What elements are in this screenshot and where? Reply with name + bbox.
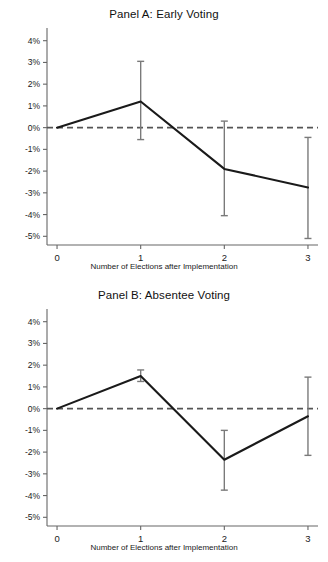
panel-b-x-axis-title: Number of Elections after Implementation <box>0 543 328 552</box>
y-tick-label: -4% <box>25 210 41 220</box>
panel-a-plot: 4%3%2%1%0%-1%-2%-3%-4%-5%0123 <box>0 0 328 281</box>
y-tick-label: 1% <box>28 382 41 392</box>
y-tick-label: -2% <box>25 166 41 176</box>
y-tick-label: -3% <box>25 188 41 198</box>
figure-container: Panel A: Early Voting Effect on Turnout … <box>0 0 328 562</box>
panel-b-plot: 4%3%2%1%0%-1%-2%-3%-4%-5%0123 <box>0 281 328 562</box>
y-tick-label: 3% <box>28 338 41 348</box>
y-tick-label: -3% <box>25 469 41 479</box>
panel-b: Panel B: Absentee Voting Effect on Turno… <box>0 281 328 562</box>
y-tick-label: 0% <box>28 404 41 414</box>
panel-a: Panel A: Early Voting Effect on Turnout … <box>0 0 328 281</box>
y-tick-label: 1% <box>28 101 41 111</box>
y-tick-label: 0% <box>28 123 41 133</box>
y-tick-label: 4% <box>28 317 41 327</box>
y-tick-label: -1% <box>25 144 41 154</box>
y-tick-label: -4% <box>25 491 41 501</box>
y-tick-label: -1% <box>25 425 41 435</box>
y-tick-label: -5% <box>25 231 41 241</box>
panel-a-x-axis-title: Number of Elections after Implementation <box>0 262 328 271</box>
y-tick-label: -2% <box>25 447 41 457</box>
y-tick-label: 2% <box>28 360 41 370</box>
y-tick-label: 4% <box>28 36 41 46</box>
y-tick-label: 2% <box>28 79 41 89</box>
series-line <box>57 102 308 188</box>
y-tick-label: -5% <box>25 512 41 522</box>
series-line <box>57 376 308 460</box>
y-tick-label: 3% <box>28 57 41 67</box>
